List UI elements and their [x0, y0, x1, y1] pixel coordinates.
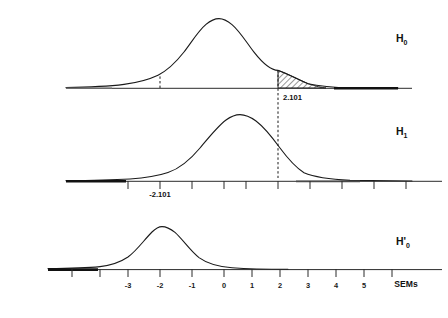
tick-label-neg1: -1 — [189, 281, 196, 290]
panel-h0: 2.101 H0 — [66, 19, 412, 178]
tick-label-neg2: -2 — [157, 281, 164, 290]
distributions-figure: 2.101 H0 -2.101 H1 — [0, 0, 448, 318]
hypothesis-label-h1: H1 — [396, 125, 408, 139]
tick-label-4: 4 — [334, 281, 339, 290]
panel-h1: -2.101 H1 — [66, 115, 442, 199]
curve-h1 — [66, 115, 412, 181]
axis-title-sems: SEMs — [394, 279, 418, 289]
tick-label-neg3: -3 — [125, 281, 132, 290]
tick-label-3: 3 — [306, 281, 310, 290]
tick-label-2: 2 — [278, 281, 282, 290]
critical-value-label-h0: 2.101 — [283, 93, 303, 102]
tick-label-0: 0 — [222, 281, 226, 290]
tick-label-5: 5 — [362, 281, 366, 290]
axis-ticks-h1 — [128, 181, 406, 189]
curve-h0-prime — [48, 227, 288, 270]
curve-h0 — [66, 19, 398, 88]
critical-value-label-h1: -2.101 — [149, 190, 171, 199]
hypothesis-label-h0: H0 — [396, 32, 408, 46]
axis-tick-labels: -3 -2 -1 0 1 2 3 4 5 — [125, 281, 366, 290]
axis-ticks-h0-prime — [72, 269, 392, 277]
tick-label-1: 1 — [250, 281, 254, 290]
panel-h0-prime: -3 -2 -1 0 1 2 3 4 5 SEMs H'0 — [48, 227, 442, 290]
hypothesis-label-h0-prime: H'0 — [396, 235, 410, 249]
